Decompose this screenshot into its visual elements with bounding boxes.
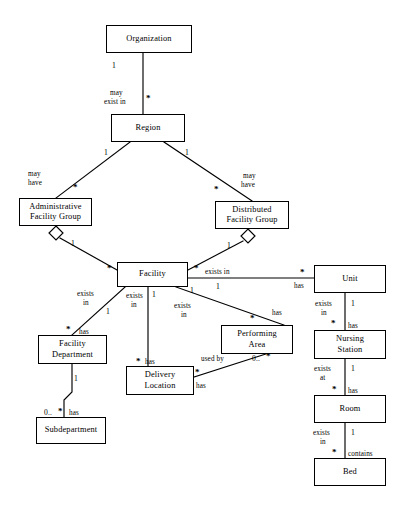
entity-label-performing-line1: Performing [237, 329, 277, 339]
entity-label-facility-department-line1: Facility [59, 339, 86, 349]
entity-room[interactable]: Room [314, 395, 386, 423]
role-label-nursing-room-line1: exists [314, 365, 331, 373]
role-label-facility-performing-line2: in [181, 311, 187, 319]
role-label-room-bed-line2: in [320, 438, 326, 446]
entity-label-administrative-line2: Facility Group [30, 212, 81, 222]
multiplicity-dist-star: * [214, 185, 219, 194]
entity-label-nursing-line1: Nursing [336, 334, 364, 344]
role-label-facility-performing-line1: exists [174, 302, 191, 310]
role-label-may-have-right-line2: have [241, 181, 255, 189]
multiplicity-dept-sub-one: 1 [74, 375, 78, 383]
role-label-nursing-has: has [348, 322, 358, 330]
multiplicity-performing-usedby-star: * [266, 352, 271, 361]
entity-label-bed: Bed [343, 467, 357, 477]
entity-label-facility-department-line2: Department [52, 350, 93, 360]
uml-class-diagram: Organization Region Administrative Facil… [0, 0, 411, 506]
entity-label-region: Region [135, 123, 160, 133]
multiplicity-performing-star: * [250, 314, 255, 323]
entity-unit[interactable]: Unit [314, 265, 386, 293]
entity-delivery-location[interactable]: Delivery Location [126, 366, 194, 395]
multiplicity-bed-star: * [332, 448, 337, 457]
aggregation-diamond-administrative [49, 226, 63, 240]
entity-label-subdepartment: Subdepartment [45, 425, 98, 435]
entity-subdepartment[interactable]: Subdepartment [36, 417, 106, 444]
role-label-bed-contains: contains [348, 450, 373, 458]
multiplicity-unit-star: * [300, 268, 305, 277]
role-label-facility-delivery-line2: in [131, 301, 137, 309]
role-label-may-have-right-line1: may [243, 172, 256, 180]
multiplicity-delivery-performing-star: * [195, 368, 200, 377]
multiplicity-dept-star: * [66, 325, 71, 334]
role-label-unit-nursing-line1: exists [315, 300, 332, 308]
multiplicity-admin-diamond-one: 1 [71, 240, 75, 248]
multiplicity-room-star: * [332, 385, 337, 394]
role-label-facility-unit-exists-in: exists in [205, 268, 230, 276]
role-label-may-exist-in-line1: may [110, 89, 123, 97]
multiplicity-unit-nursing-one: 1 [351, 300, 355, 308]
role-label-unit-nursing-line2: in [321, 309, 327, 317]
multiplicity-nursing-room-one: 1 [351, 365, 355, 373]
role-label-performing-has: has [272, 309, 282, 317]
multiplicity-region-admin-one: 1 [104, 149, 108, 157]
edge-region-distributed-group [164, 142, 252, 201]
role-label-may-exist-in-line2: exist in [104, 98, 126, 106]
multiplicity-delivery-star: * [136, 357, 141, 366]
entity-label-performing-line2: Area [249, 340, 266, 350]
multiplicity-admin-star: * [73, 183, 78, 192]
multiplicity-facility-performing-one: 1 [190, 287, 194, 295]
role-label-nursing-room-line2: at [320, 374, 325, 382]
entity-label-room: Room [339, 404, 360, 414]
multiplicity-region-star: * [146, 94, 151, 103]
role-label-unit-has: has [294, 282, 304, 290]
entity-label-nursing-line2: Station [338, 345, 363, 355]
role-label-sub-has: has [69, 409, 79, 417]
entity-administrative-facility-group[interactable]: Administrative Facility Group [19, 198, 92, 226]
multiplicity-dist-diamond-one: 1 [227, 242, 231, 250]
entity-region[interactable]: Region [111, 114, 185, 142]
role-label-may-have-left-line1: may [28, 170, 41, 178]
multiplicity-facility-left-star: * [107, 264, 112, 273]
entity-label-distributed-line2: Facility Group [226, 215, 277, 225]
entity-label-organization: Organization [126, 34, 171, 44]
role-label-facility-delivery-line1: exists [126, 292, 143, 300]
entity-label-delivery-line2: Location [145, 381, 176, 391]
role-label-may-have-left-line2: have [28, 179, 42, 187]
entity-distributed-facility-group[interactable]: Distributed Facility Group [215, 201, 289, 229]
multiplicity-organization-region: 1 [112, 62, 116, 70]
entity-facility[interactable]: Facility [117, 262, 188, 287]
entity-organization[interactable]: Organization [106, 25, 192, 53]
entity-performing-area[interactable]: Performing Area [221, 325, 293, 354]
multiplicity-room-bed-one: 1 [351, 429, 355, 437]
multiplicity-facility-unit-one: 1 [216, 283, 220, 291]
role-label-used-by: used by [201, 355, 224, 363]
entity-label-administrative-line1: Administrative [29, 202, 81, 212]
role-label-facility-dept-line2: in [83, 299, 89, 307]
multiplicity-nursing-star: * [331, 319, 336, 328]
multiplicity-sub-zero-many: 0.. [44, 409, 52, 417]
multiplicity-facility-right-star: * [194, 264, 199, 273]
multiplicity-performing-zero-many: 0.. [252, 355, 260, 363]
entity-label-unit: Unit [342, 274, 358, 284]
role-label-delivery-has: has [145, 358, 155, 366]
role-label-delivery-performing-has: has [196, 382, 206, 390]
entity-facility-department[interactable]: Facility Department [38, 335, 107, 364]
multiplicity-facility-delivery-one: 1 [152, 291, 156, 299]
multiplicity-region-dist-one: 1 [185, 149, 189, 157]
multiplicity-sub-star: * [58, 407, 63, 416]
role-label-dept-has: has [79, 328, 89, 336]
multiplicity-facility-dept-one: 1 [106, 308, 110, 316]
aggregation-diamond-distributed [241, 229, 255, 243]
edge-region-administrative-group [56, 142, 130, 198]
role-label-facility-dept-line1: exists [77, 290, 94, 298]
entity-bed[interactable]: Bed [314, 458, 386, 486]
entity-label-delivery-line1: Delivery [145, 370, 176, 380]
entity-label-facility: Facility [139, 269, 166, 279]
role-label-room-has: has [348, 387, 358, 395]
entity-label-distributed-line1: Distributed [232, 205, 271, 215]
role-label-room-bed-line1: exists [313, 429, 330, 437]
entity-nursing-station[interactable]: Nursing Station [314, 330, 386, 359]
